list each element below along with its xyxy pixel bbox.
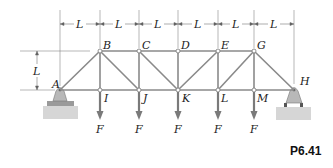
joint-label-i: I [103, 92, 109, 105]
load-label-j: F [134, 123, 143, 136]
member-lg [218, 51, 254, 90]
load-arrows [97, 92, 258, 120]
joint-label-b: B [102, 39, 111, 52]
dim-label-6: L [269, 18, 277, 31]
load-label-m: F [249, 123, 258, 136]
joint-label-c: C [142, 39, 151, 52]
load-label-k: F [173, 123, 182, 136]
member-gh [254, 51, 294, 90]
member-bj [100, 51, 139, 90]
load-label-i: F [95, 123, 104, 136]
joint-label-g: G [257, 39, 266, 52]
dim-label-5: L [231, 18, 239, 31]
height-label: L [32, 65, 40, 78]
truss-diagram: L L L L L L L [0, 0, 333, 168]
joint-label-j: J [141, 92, 148, 105]
pin-support-a [43, 88, 78, 120]
joint-label-m: M [256, 92, 269, 105]
dim-label-4: L [193, 18, 201, 31]
roller-support-h [276, 88, 311, 121]
joint-label-h: H [299, 75, 310, 88]
member-ab [60, 51, 100, 90]
dim-label-2: L [114, 18, 122, 31]
joint-pins [98, 49, 256, 92]
horizontal-dimensions [60, 23, 294, 26]
joint-label-d: D [180, 39, 190, 52]
figure-id-label: P6.41 [290, 144, 322, 158]
truss-members [60, 51, 294, 90]
dim-label-1: L [75, 18, 83, 31]
member-ck [139, 51, 178, 90]
member-ke [178, 51, 218, 90]
joint-label-a: A [51, 78, 60, 91]
joint-label-k: K [181, 92, 191, 105]
load-label-l: F [213, 123, 222, 136]
joint-label-e: E [220, 39, 229, 52]
joint-label-l: L [220, 92, 228, 105]
dim-label-3: L [153, 18, 161, 31]
